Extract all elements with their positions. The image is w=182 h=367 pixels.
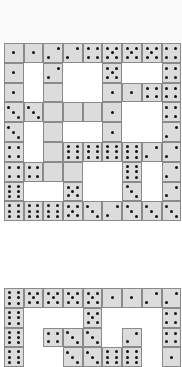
domino-half[interactable] xyxy=(102,288,122,308)
domino-half[interactable] xyxy=(142,142,162,162)
pip-icon xyxy=(126,156,129,159)
domino-half[interactable] xyxy=(162,182,182,202)
domino-half[interactable] xyxy=(63,201,83,221)
domino-half[interactable] xyxy=(162,142,182,162)
domino-half[interactable] xyxy=(102,83,122,103)
domino-half[interactable] xyxy=(162,201,182,221)
pip-icon xyxy=(8,296,11,299)
domino-half[interactable] xyxy=(4,43,24,63)
domino-half[interactable] xyxy=(4,328,24,348)
domino-half[interactable] xyxy=(63,142,83,162)
pip-icon xyxy=(111,91,114,94)
domino-half[interactable] xyxy=(4,182,24,202)
domino-half[interactable] xyxy=(102,43,122,63)
domino-half[interactable] xyxy=(162,63,182,83)
domino-half[interactable] xyxy=(43,102,63,122)
domino-half[interactable] xyxy=(24,201,44,221)
pip-icon xyxy=(28,215,31,218)
pip-icon xyxy=(135,215,138,218)
domino-half[interactable] xyxy=(4,83,24,103)
domino-half[interactable] xyxy=(43,201,63,221)
domino-half[interactable] xyxy=(102,201,122,221)
domino-half[interactable] xyxy=(43,288,63,308)
pip-icon xyxy=(76,145,79,148)
domino-half[interactable] xyxy=(102,142,122,162)
domino-half[interactable] xyxy=(63,43,83,63)
domino-half[interactable] xyxy=(43,162,63,182)
pip-icon xyxy=(8,302,11,305)
domino-half[interactable] xyxy=(4,162,24,182)
domino-half[interactable] xyxy=(43,122,63,142)
domino-half[interactable] xyxy=(63,162,83,182)
domino-half[interactable] xyxy=(142,288,162,308)
domino-half[interactable] xyxy=(162,83,182,103)
domino-half[interactable] xyxy=(122,347,142,367)
domino-half[interactable] xyxy=(63,347,83,367)
domino-half[interactable] xyxy=(4,142,24,162)
domino-half[interactable] xyxy=(162,347,182,367)
domino-half[interactable] xyxy=(83,43,103,63)
domino-half[interactable] xyxy=(102,122,122,142)
domino-half[interactable] xyxy=(4,63,24,83)
domino-half[interactable] xyxy=(43,142,63,162)
domino-half[interactable] xyxy=(43,83,63,103)
domino-half[interactable] xyxy=(122,83,142,103)
domino-half[interactable] xyxy=(142,83,162,103)
domino-half[interactable] xyxy=(102,102,122,122)
domino-half[interactable] xyxy=(63,182,83,202)
domino-half[interactable] xyxy=(63,288,83,308)
domino-half[interactable] xyxy=(122,162,142,182)
domino-half[interactable] xyxy=(83,328,103,348)
domino-half[interactable] xyxy=(24,288,44,308)
domino-half[interactable] xyxy=(83,142,103,162)
domino-half[interactable] xyxy=(162,122,182,142)
domino-half[interactable] xyxy=(162,288,182,308)
domino-half[interactable] xyxy=(4,288,24,308)
pip-icon xyxy=(36,292,39,295)
pip-icon xyxy=(115,361,118,364)
domino-half[interactable] xyxy=(142,201,162,221)
domino-half[interactable] xyxy=(122,142,142,162)
domino-half[interactable] xyxy=(4,347,24,367)
pip-icon xyxy=(115,47,118,50)
domino-half[interactable] xyxy=(162,43,182,63)
domino-half[interactable] xyxy=(4,201,24,221)
empty-cell xyxy=(102,162,122,182)
pip-icon xyxy=(71,190,74,193)
pip-icon xyxy=(135,56,138,59)
domino-half[interactable] xyxy=(102,63,122,83)
domino-half[interactable] xyxy=(83,308,103,328)
domino-half[interactable] xyxy=(63,328,83,348)
domino-half[interactable] xyxy=(162,328,182,348)
domino-half[interactable] xyxy=(122,182,142,202)
pip-icon xyxy=(111,71,114,74)
domino-half[interactable] xyxy=(83,288,103,308)
domino-half[interactable] xyxy=(122,288,142,308)
pip-icon xyxy=(8,146,11,149)
domino-half[interactable] xyxy=(83,347,103,367)
domino-half[interactable] xyxy=(4,122,24,142)
pip-icon xyxy=(17,204,20,207)
domino-half[interactable] xyxy=(24,102,44,122)
domino-half[interactable] xyxy=(162,162,182,182)
domino-half[interactable] xyxy=(4,308,24,328)
domino-half[interactable] xyxy=(24,162,44,182)
domino-half[interactable] xyxy=(24,43,44,63)
pip-icon xyxy=(86,351,89,354)
domino-half[interactable] xyxy=(122,201,142,221)
domino-half[interactable] xyxy=(83,201,103,221)
domino-half[interactable] xyxy=(43,328,63,348)
domino-half[interactable] xyxy=(102,347,122,367)
domino-half[interactable] xyxy=(83,102,103,122)
domino-half[interactable] xyxy=(63,102,83,122)
domino-half[interactable] xyxy=(142,43,162,63)
domino-half[interactable] xyxy=(4,102,24,122)
pip-icon xyxy=(7,106,10,109)
domino-half[interactable] xyxy=(43,63,63,83)
domino-half[interactable] xyxy=(162,102,182,122)
empty-cell xyxy=(83,162,103,182)
domino-half[interactable] xyxy=(122,43,142,63)
domino-half[interactable] xyxy=(162,308,182,328)
domino-half[interactable] xyxy=(122,328,142,348)
domino-half[interactable] xyxy=(43,43,63,63)
